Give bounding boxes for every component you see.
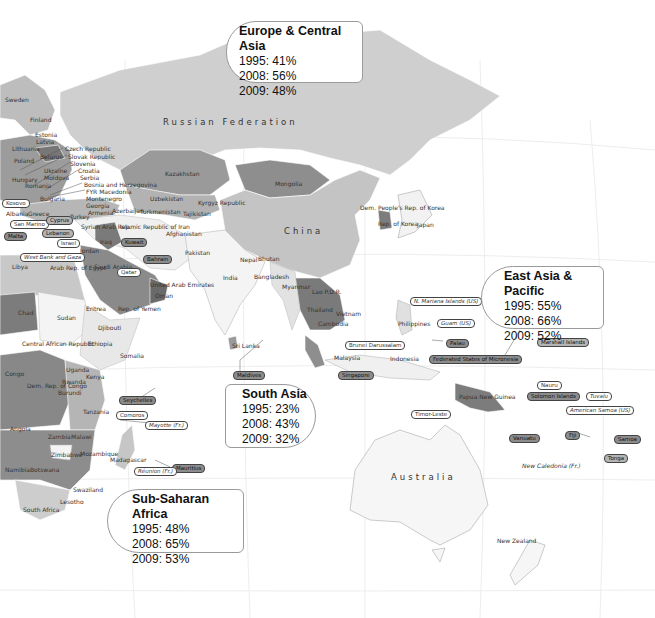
australia-shape: [350, 425, 488, 545]
philippines-shape: [396, 300, 412, 335]
label-lebanon: Lebanon: [42, 229, 74, 238]
callout-row: 2008: 65%: [132, 537, 243, 552]
label-burundi: Burundi: [58, 389, 81, 396]
label-fiji: Fiji: [565, 431, 580, 440]
callout-row: 2009: 52%: [504, 329, 603, 344]
label-tanzania: Tanzania: [83, 408, 109, 415]
label-madagascar: Madagascar: [110, 456, 146, 463]
label-uzbekistan: Uzbekistan: [150, 195, 183, 202]
madagascar-shape: [115, 425, 135, 470]
callout-row: 1995: 41%: [239, 54, 362, 69]
label-malawi: Malawi: [71, 433, 92, 440]
label-yemen: Rep. of Yemen: [118, 305, 161, 312]
label-lesotho: Lesotho: [60, 498, 84, 505]
label-tajikistan: Tajikistan: [183, 210, 211, 217]
malaysia-shape: [305, 335, 325, 368]
callout-row: 2008: 43%: [242, 417, 315, 432]
label-laos: Lao P.D.R.: [312, 288, 342, 295]
label-georgia: Georgia: [86, 202, 110, 209]
label-timorleste: Timor-Leste: [411, 410, 451, 419]
tasmania-shape: [432, 548, 445, 562]
label-bhutan: Bhutan: [258, 255, 280, 262]
label-maldives: Maldives: [233, 371, 265, 380]
label-amsamoa: American Samoa (US): [566, 406, 634, 415]
label-newcaledonia: New Caledonia (Fr.): [522, 462, 581, 469]
callout-title: East Asia & Pacific: [504, 269, 603, 299]
label-kazakhstan: Kazakhstan: [165, 170, 200, 177]
label-bosnia: Bosnia and Herzegovina: [84, 181, 157, 188]
label-libya: Libya: [12, 263, 28, 270]
label-fyrom: FYR Macedonia: [86, 188, 132, 195]
label-nepal: Nepal: [240, 256, 257, 263]
label-belarus: Belarus: [40, 153, 63, 160]
label-malaysia: Malaysia: [334, 354, 360, 361]
label-southafrica: South Africa: [23, 506, 59, 513]
label-bulgaria: Bulgaria: [40, 195, 65, 202]
label-seychelles: Seychelles: [119, 396, 156, 405]
label-oman: Oman: [155, 292, 173, 299]
label-sudan: Sudan: [57, 314, 76, 321]
label-kosovo: Kosovo: [2, 199, 30, 208]
label-latvia: Latvia: [36, 138, 54, 145]
label-finland: Finland: [30, 116, 51, 123]
label-palau: Palau: [446, 339, 469, 348]
label-singapore: Singapore: [338, 371, 374, 380]
label-poland: Poland: [14, 157, 34, 164]
label-iran: Islamic Republic of Iran: [120, 223, 190, 230]
label-somalia: Somalia: [120, 352, 144, 359]
label-malta: Malta: [4, 232, 27, 241]
label-mauritius: Mauritius: [172, 464, 205, 473]
label-djibouti: Djibouti: [98, 324, 121, 331]
label-myanmar: Myanmar: [282, 283, 310, 290]
horn-africa-shape: [80, 305, 140, 370]
label-indonesia: Indonesia: [390, 355, 419, 362]
label-png: Papua New Guinea: [459, 393, 516, 400]
label-lithuania: Lithuania: [12, 145, 40, 152]
label-japan: Japan: [417, 221, 434, 228]
label-thailand: Thailand: [307, 306, 333, 313]
label-angola: Angola: [10, 425, 31, 432]
label-newzealand: New Zealand: [497, 537, 536, 544]
callout-east-asia-pacific: East Asia & Pacific 1995: 55% 2008: 66% …: [481, 266, 604, 329]
label-uae: United Arab Emirates: [150, 281, 214, 288]
label-slovak: Slovak Republic: [68, 153, 115, 160]
label-cyprus: Cyprus: [46, 216, 73, 225]
label-china: China: [284, 228, 323, 235]
label-qatar: Qatar: [117, 268, 141, 277]
label-srilanka: Sri Lanka: [232, 342, 260, 349]
label-swaziland: Swaziland: [73, 486, 103, 493]
label-kuwait: Kuwait: [121, 238, 147, 247]
label-ukraine: Ukraine: [44, 167, 67, 174]
label-comoros: Comoros: [116, 411, 148, 420]
label-namibia: Namibia: [5, 466, 30, 473]
label-vanuatu: Vanuatu: [509, 434, 540, 443]
label-romania: Romania: [25, 182, 51, 189]
label-nauru: Nauru: [537, 381, 562, 390]
label-brunei: Brunei Darussalam: [345, 341, 405, 350]
label-serbia: Serbia: [80, 174, 99, 181]
label-montenegro: Montenegro: [86, 195, 122, 202]
callout-row: 2008: 66%: [504, 314, 603, 329]
label-bangladesh: Bangladesh: [254, 273, 289, 280]
label-tonga: Tonga: [604, 454, 628, 463]
label-moldova: Moldova: [44, 174, 69, 181]
callout-row: 1995: 55%: [504, 299, 603, 314]
label-samoa: Samoa: [614, 435, 641, 444]
callout-europe-central-asia: Europe & Central Asia 1995: 41% 2008: 56…: [226, 21, 363, 83]
label-vietnam: Vietnam: [336, 310, 361, 317]
label-israel: Israel: [57, 239, 80, 248]
label-guam: Guam (US): [437, 319, 475, 328]
label-azerbaijan: Azerbaijan: [112, 207, 144, 214]
label-car: Central African Republic: [22, 340, 94, 347]
label-uganda: Uganda: [66, 366, 89, 373]
label-slovenia: Slovenia: [70, 160, 96, 167]
label-india: India: [223, 274, 238, 281]
label-chad: Chad: [18, 309, 33, 316]
japan-shape: [398, 190, 432, 238]
callout-title: Sub-Saharan Africa: [132, 492, 243, 522]
label-dprk: Dem. People's Rep. of Korea: [360, 204, 445, 211]
callout-row: 1995: 23%: [242, 402, 315, 417]
label-iraq: Iraq: [100, 238, 112, 245]
label-estonia: Estonia: [35, 131, 57, 138]
label-solomon: Solomon Islands: [527, 392, 580, 401]
